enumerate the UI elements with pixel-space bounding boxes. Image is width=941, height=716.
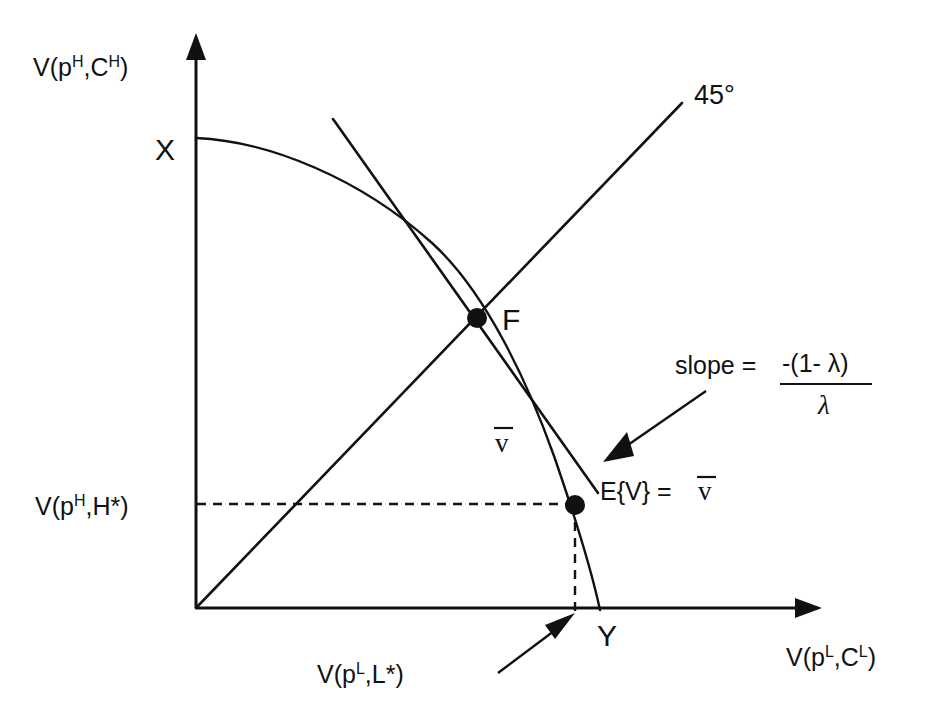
tangent-line: [333, 119, 598, 493]
x-tick-pointer-group: [498, 613, 575, 673]
y-axis-label: V(pH,CH): [33, 53, 128, 81]
forty-five-degree-ray: [196, 103, 682, 608]
x-axis-arrowhead: [795, 598, 822, 618]
y-axis-arrowhead: [186, 33, 206, 60]
figure-container: V(pH,CH) V(pL,CL) V(pH,H*) V(pL,L*) X Y …: [0, 0, 941, 716]
forty-five-degree-label: 45°: [694, 80, 735, 110]
point-f-label: F: [502, 303, 520, 336]
y-tick-label: V(pH,H*): [35, 492, 129, 520]
curve-vbar-label-group: v: [494, 428, 513, 458]
expectation-lhs-label: E{V} =: [600, 477, 672, 505]
slope-denominator-label: λ: [817, 390, 830, 420]
forty-five-degree-ray-group: [196, 103, 682, 608]
point-f-dot: [467, 308, 487, 328]
point-x-label: X: [155, 133, 175, 166]
x-tick-label: V(pL,L*): [317, 660, 404, 688]
slope-pointer-group: [603, 391, 706, 462]
slope-pointer-line: [625, 391, 706, 447]
curve-vbar-label: v: [495, 428, 509, 458]
reference-lines-group: [197, 504, 575, 614]
marker-dots-group: [467, 308, 585, 515]
expectation-point-dot: [565, 495, 585, 515]
slope-pointer-arrowhead: [603, 432, 634, 462]
expectation-annotation-group: E{V} = v: [600, 476, 716, 506]
economics-diagram: V(pH,CH) V(pL,CL) V(pH,H*) V(pL,L*) X Y …: [0, 0, 941, 716]
expectation-rhs-label: v: [698, 476, 712, 506]
slope-prefix-label: slope =: [675, 351, 756, 379]
x-axis-label: V(pL,CL): [786, 643, 876, 671]
slope-annotation-group: slope = -(1- λ) λ: [675, 349, 872, 420]
point-y-label: Y: [597, 619, 617, 652]
x-tick-pointer-line: [498, 628, 558, 673]
slope-numerator-label: -(1- λ): [782, 349, 849, 377]
tangent-line-group: [333, 119, 598, 493]
